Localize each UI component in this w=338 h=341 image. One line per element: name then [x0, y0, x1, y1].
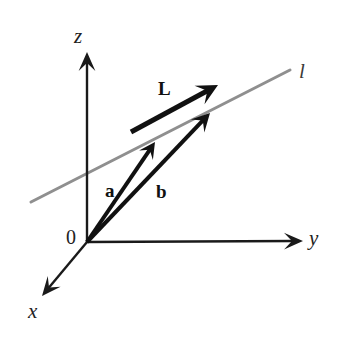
- vector-a-label: a: [105, 181, 115, 200]
- z-axis-label: z: [74, 26, 82, 47]
- y-axis-shaft: [87, 241, 294, 242]
- x-axis-shaft: [48, 242, 87, 289]
- vector-a-shaft: [87, 149, 150, 242]
- vector-diagram-figure: z y x 0 l a b L: [0, 0, 338, 341]
- y-axis-label: y: [309, 228, 318, 249]
- vector-b-label: b: [156, 182, 167, 201]
- diagram-canvas: [0, 0, 338, 341]
- vector-L-label: L: [158, 79, 171, 98]
- line-l-label: l: [299, 61, 305, 82]
- origin-label: 0: [66, 227, 76, 247]
- x-axis-label: x: [28, 301, 37, 322]
